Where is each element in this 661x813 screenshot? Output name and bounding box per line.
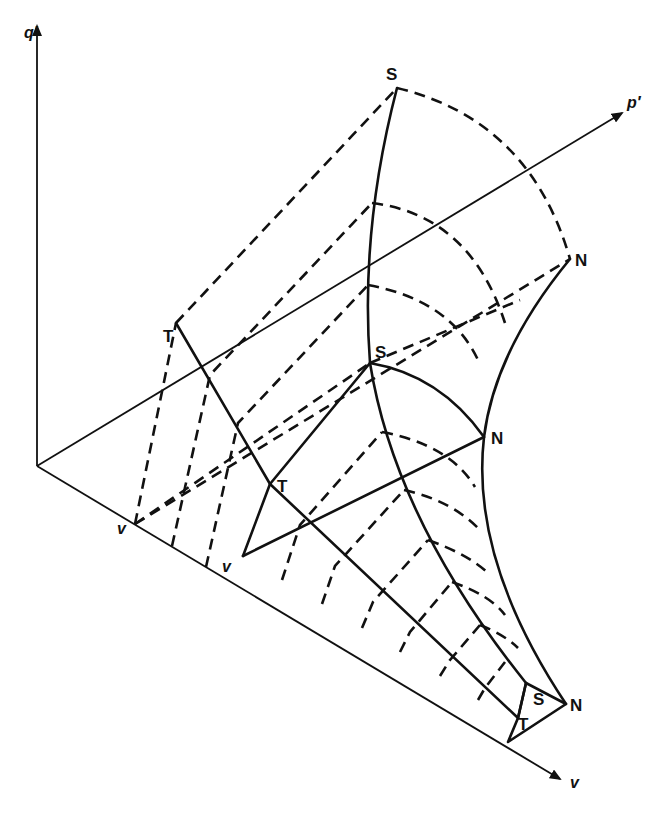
label-n-bottom: N [570,696,582,715]
mid-diagonal-dashed [135,363,370,524]
p-axis-label: p′ [626,94,642,111]
label-v-mid: v [222,558,232,575]
section-6-dashed [400,582,452,652]
label-s-mid: S [375,343,386,362]
top-vt-dashed [135,323,176,524]
dashed-construction-lines [135,88,570,700]
q-axis-label: q′ [24,24,39,41]
state-boundary-surface-diagram: q′ p′ v [0,0,661,813]
point-labels: S N T S N T v v S N T [117,65,587,734]
section-1-dashed [172,203,372,546]
section-7-arc [480,625,518,648]
solid-boundary-curves [176,88,570,742]
label-s-bottom: S [533,690,544,709]
label-n-top: N [575,251,587,270]
section-6-arc [452,582,505,615]
section-3-dashed [282,432,382,580]
mid-ts-line [270,363,370,484]
section-5-arc [428,540,490,575]
label-t-top: T [163,327,174,346]
label-v-left: v [117,520,127,537]
bottom-ts-edge [518,683,526,718]
normal-compression-curve [482,259,570,704]
critical-state-curve [368,88,526,683]
mid-sn-arc [370,363,484,437]
section-2-dashed [206,285,368,567]
label-t-mid: T [277,477,288,496]
mid-sn-dashed [370,300,520,363]
label-s-top: S [386,65,397,84]
top-vn-dashed [135,259,570,524]
section-1-arc [372,203,505,323]
v-axis-label: v [570,774,580,791]
section-5-dashed [362,540,428,628]
tt-line [176,323,518,718]
section-4-dashed [322,490,404,604]
label-n-mid: N [491,429,503,448]
label-t-bottom: T [518,715,529,734]
